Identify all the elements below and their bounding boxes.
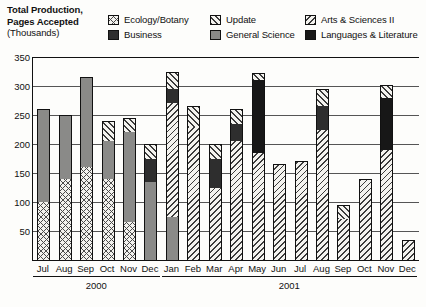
chart-title: Total Production, Pages Accepted (Thousa… [7, 4, 102, 39]
x-axis-label-4: Nov [118, 263, 139, 274]
year-label-2000: 2000 [33, 280, 160, 291]
bar-segment-update [230, 109, 243, 124]
bar-segment-business [230, 124, 243, 141]
bar-segment-languages [380, 98, 393, 150]
y-axis-tick-150: 150 [14, 169, 30, 179]
chart-legend: Ecology/Botany Business Update General S… [108, 12, 424, 43]
x-axis-label-7: Feb [182, 263, 203, 274]
legend-label-update: Update [226, 14, 256, 25]
bar-segment-arts [359, 179, 372, 260]
bar-jun-11 [273, 164, 286, 260]
bar-segment-business [166, 89, 179, 104]
bar-segment-arts [187, 127, 200, 260]
bar-segment-ecology [37, 202, 50, 260]
bar-segment-arts [380, 150, 393, 260]
production-chart: Total Production, Pages Accepted (Thousa… [0, 0, 426, 307]
x-axis-label-9: Apr [225, 263, 246, 274]
x-axis-label-14: Sep [332, 263, 353, 274]
legend-item-arts-sciences-ii: Arts & Sciences II [305, 12, 418, 27]
year-rule-2001 [162, 276, 417, 277]
legend-swatch-languages-literature-icon [305, 30, 316, 40]
legend-label-ecology: Ecology/Botany [124, 14, 189, 25]
bar-segment-languages [252, 80, 265, 153]
legend-swatch-update-icon [210, 15, 221, 25]
bar-segment-update [102, 121, 115, 141]
legend-item-languages-literature: Languages & Literature [305, 27, 418, 42]
bar-segment-ecology [59, 179, 72, 260]
legend-column-1: Ecology/Botany Business [108, 12, 189, 42]
bar-oct-15 [359, 179, 372, 260]
x-axis-label-8: Mar [204, 263, 225, 274]
x-axis-label-3: Oct [96, 263, 117, 274]
x-axis-label-15: Oct [354, 263, 375, 274]
legend-label-general-science: General Science [226, 29, 295, 40]
bar-segment-genscience [123, 132, 136, 222]
chart-header: Total Production, Pages Accepted (Thousa… [0, 0, 426, 46]
bar-segment-genscience [144, 182, 157, 260]
bar-jul-0 [37, 109, 50, 260]
bar-segment-ecology [80, 167, 93, 260]
bar-segment-arts [402, 240, 415, 260]
bar-jul-12 [295, 161, 308, 260]
bar-segment-arts [295, 161, 308, 260]
bar-segment-update [337, 205, 350, 220]
bar-segment-arts [316, 130, 329, 261]
chart-title-line1: Total Production, [7, 4, 83, 15]
bar-segment-update [380, 85, 393, 98]
x-axis-label-1: Aug [53, 263, 74, 274]
x-axis-label-16: Nov [375, 263, 396, 274]
bar-aug-13 [316, 89, 329, 260]
chart-title-units: (Thousands) [7, 27, 59, 38]
legend-label-languages-literature: Languages & Literature [321, 29, 418, 40]
bar-segment-update [123, 118, 136, 133]
bar-segment-ecology [123, 222, 136, 260]
y-axis-tick-300: 300 [14, 82, 30, 92]
x-axis-label-0: Jul [32, 263, 53, 274]
bar-nov-16 [380, 85, 393, 260]
x-axis-label-5: Dec [139, 263, 160, 274]
legend-swatch-business-icon [108, 30, 119, 40]
bar-sep-14 [337, 205, 350, 260]
bar-nov-4 [123, 118, 136, 260]
y-axis-tick-250: 250 [14, 111, 30, 121]
bar-segment-update [316, 89, 329, 106]
bar-segment-update [187, 106, 200, 126]
bar-segment-update [144, 144, 157, 159]
bar-segment-business [144, 159, 157, 182]
bar-mar-8 [209, 144, 222, 260]
x-axis-label-6: Jan [161, 263, 182, 274]
x-axis-labels: JulAugSepOctNovDecJanFebMarAprMayJunJulA… [32, 263, 418, 275]
x-axis-label-13: Aug [311, 263, 332, 274]
legend-column-3: Arts & Sciences II Languages & Literatur… [305, 12, 418, 42]
x-axis-label-12: Jul [289, 263, 310, 274]
bar-segment-business [209, 159, 222, 188]
y-axis-tick-200: 200 [14, 140, 30, 150]
bar-dec-5 [144, 144, 157, 260]
bar-sep-2 [80, 77, 93, 260]
bar-jan-6 [166, 72, 179, 260]
bar-oct-3 [102, 121, 115, 260]
x-axis-label-2: Sep [75, 263, 96, 274]
bar-series-container [33, 57, 419, 260]
bar-segment-genscience [166, 217, 179, 261]
bar-segment-update [209, 144, 222, 159]
legend-item-general-science: General Science [210, 27, 295, 42]
bar-segment-genscience [37, 109, 50, 202]
bar-segment-ecology [102, 179, 115, 260]
bar-segment-arts [252, 153, 265, 260]
legend-item-update: Update [210, 12, 295, 27]
y-axis-tick-350: 350 [14, 53, 30, 63]
bar-dec-17 [402, 240, 415, 260]
chart-title-line2: Pages Accepted [7, 16, 79, 27]
plot-area: 50100150200250300350 [32, 57, 419, 261]
legend-item-ecology: Ecology/Botany [108, 12, 189, 27]
bar-segment-genscience [102, 141, 115, 179]
y-axis-tick-50: 50 [19, 227, 30, 237]
x-axis-label-11: Jun [268, 263, 289, 274]
legend-item-business: Business [108, 27, 189, 42]
x-axis-year-groups: 20002001 [32, 276, 418, 298]
y-axis-tick-100: 100 [14, 198, 30, 208]
bar-aug-1 [59, 115, 72, 260]
bar-segment-arts [166, 103, 179, 216]
x-axis-label-17: Dec [397, 263, 418, 274]
